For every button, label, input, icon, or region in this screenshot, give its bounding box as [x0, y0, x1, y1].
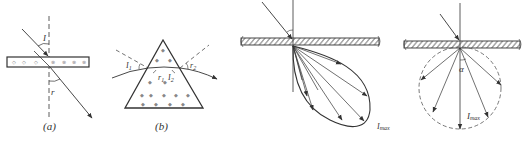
svg-text:◆: ◆	[148, 79, 152, 85]
svg-text:◆: ◆	[141, 101, 145, 107]
imax-label-d: Imax	[466, 111, 480, 121]
svg-text:⊗: ⊗	[82, 59, 86, 65]
svg-text:◆: ◆	[168, 57, 172, 63]
scattered-rays-d	[421, 48, 501, 117]
normal-left	[116, 50, 148, 68]
caption-b: (b)	[155, 120, 168, 133]
incidence-arc-c	[287, 30, 293, 32]
label-r2: r2	[190, 61, 196, 71]
panel-a-slab-refraction: ◇◇◇ ⊗⊗⊗⊗ I r (a)	[7, 16, 92, 133]
svg-text:⊗: ⊗	[72, 59, 76, 65]
caption-a: (a)	[43, 120, 56, 133]
refraction-angle-label: r	[51, 87, 55, 97]
svg-text:◆: ◆	[181, 101, 185, 107]
label-i1: I1	[125, 61, 132, 71]
svg-text:◆: ◆	[186, 92, 190, 98]
surface-slab-d	[404, 41, 520, 48]
refraction-scattering-diagram: ◇◇◇ ⊗⊗⊗⊗ I r (a) ◆ ◆◆ ◆◆ ◆◆◆◆◆ ◆◆◆◆	[0, 0, 525, 149]
svg-text:◆: ◆	[154, 101, 158, 107]
svg-text:◇: ◇	[34, 59, 38, 65]
angle-arc-r2	[186, 63, 188, 69]
svg-text:◆: ◆	[162, 92, 166, 98]
exit-ray	[50, 67, 92, 118]
incidence-angle-label: I	[42, 33, 47, 43]
panel-b-prism-refraction: ◆ ◆◆ ◆◆ ◆◆◆◆◆ ◆◆◆◆ I1 r1 I2 r2 (b)	[112, 40, 217, 133]
svg-text:◆: ◆	[149, 92, 153, 98]
refraction-angle-arc	[49, 79, 60, 81]
angle-arc-i1	[139, 64, 140, 69]
svg-text:◇: ◇	[22, 59, 26, 65]
incident-ray-c	[262, 2, 292, 39]
imax-label-c: Imax	[376, 122, 390, 131]
svg-text:◆: ◆	[168, 101, 172, 107]
svg-text:◆: ◆	[140, 92, 144, 98]
svg-text:◆: ◆	[174, 92, 178, 98]
alpha-label: α	[459, 64, 464, 74]
svg-text:◇: ◇	[12, 59, 16, 65]
svg-text:◆: ◆	[155, 57, 159, 63]
svg-text:⊗: ⊗	[62, 59, 66, 65]
svg-text:⊗: ⊗	[51, 59, 55, 65]
svg-text:◆: ◆	[161, 47, 165, 53]
surface-slab-c	[241, 38, 379, 45]
incidence-angle-arc	[38, 43, 49, 46]
panel-d-diffuse-scattering: α Imax	[404, 3, 521, 129]
panel-c-scattering-lobe: Imax	[241, 0, 390, 131]
incident-ray-d	[440, 14, 459, 40]
